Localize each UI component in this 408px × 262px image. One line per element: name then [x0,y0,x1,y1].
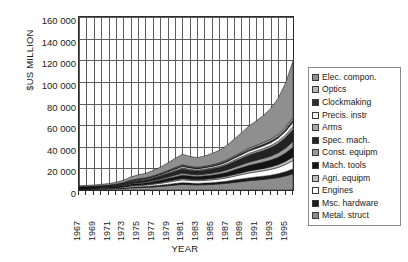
legend-item-label: Engines [322,186,353,195]
x-axis-title: YEAR [120,243,250,254]
legend-item-label: Mach. tools [322,161,366,170]
legend-item[interactable]: Engines [312,184,398,197]
legend-swatch-icon [312,212,319,219]
x-tick-label: 1981 [176,221,185,241]
legend-swatch-icon [312,162,319,169]
chart-legend: Elec. compon.OpticsClockmakingPrecis. in… [308,67,401,226]
stacked-area-series [79,17,293,190]
x-tick-mark [85,191,86,195]
x-tick-label: 1975 [132,221,141,241]
x-tick-label: 1993 [265,221,274,241]
legend-item-label: Agri. equipm [322,174,370,183]
x-tick-mark [277,191,278,195]
legend-item[interactable]: Precis. instr [312,109,398,122]
x-tick-mark [78,191,79,195]
x-tick-label: 1991 [250,221,259,241]
x-tick-label: 1971 [103,221,112,241]
y-tick-label: 60 000 [47,124,76,134]
x-tick-label: 1987 [221,221,230,241]
x-tick-label: 1973 [117,221,126,241]
y-axis-tick-labels: 160 000140 000120 000100 00080 00060 000… [26,11,76,197]
legend-swatch-icon [312,200,319,207]
x-tick-mark [218,191,219,195]
legend-item[interactable]: Arms [312,121,398,134]
legend-swatch-icon [312,112,319,119]
x-tick-mark [130,191,131,195]
legend-item[interactable]: Const. equipm [312,147,398,160]
legend-item[interactable]: Msc. hardware [312,197,398,210]
legend-item[interactable]: Clockmaking [312,96,398,109]
y-tick-label: 0 [71,189,76,199]
legend-swatch-icon [312,149,319,156]
x-tick-label: 1983 [191,221,200,241]
y-tick-label: 80 000 [47,103,76,113]
x-tick-mark [262,191,263,195]
legend-item[interactable]: Agri. equipm [312,172,398,185]
x-tick-mark [115,191,116,195]
legend-swatch-icon [312,99,319,106]
x-tick-mark [240,191,241,195]
x-tick-mark [181,191,182,195]
plot-area [78,16,294,191]
y-tick-label: 120 000 [42,59,76,69]
x-tick-mark [285,191,286,195]
y-tick-label: 140 000 [42,38,76,48]
legend-item-label: Spec. mach. [322,136,370,145]
chart-figure: $US MILLION 160 000140 000120 000100 000… [0,0,408,262]
x-tick-mark [196,191,197,195]
x-tick-mark [203,191,204,195]
legend-swatch-icon [312,124,319,131]
x-tick-mark [233,191,234,195]
legend-item-label: Const. equipm [322,148,377,157]
x-tick-label: 1995 [280,221,289,241]
legend-item-label: Precis. instr [322,111,367,120]
legend-item-label: Clockmaking [322,98,371,107]
y-tick-label: 20 000 [47,167,76,177]
x-tick-mark [211,191,212,195]
x-tick-label: 1989 [235,221,244,241]
legend-item-label: Metal. struct [322,211,369,220]
y-tick-label: 160 000 [42,16,76,26]
x-tick-label: 1977 [147,221,156,241]
x-tick-mark [152,191,153,195]
legend-swatch-icon [312,137,319,144]
x-tick-mark [108,191,109,195]
x-tick-mark [167,191,168,195]
x-tick-label: 1969 [88,221,97,241]
x-tick-mark [174,191,175,195]
x-axis-tick-labels: 1967196919711973197519771979198119831985… [78,197,294,241]
legend-swatch-icon [312,74,319,81]
legend-item[interactable]: Elec. compon. [312,71,398,84]
legend-swatch-icon [312,187,319,194]
x-tick-mark [255,191,256,195]
x-tick-label: 1967 [73,221,82,241]
x-tick-mark [137,191,138,195]
x-tick-label: 1985 [206,221,215,241]
x-tick-mark [270,191,271,195]
legend-item-label: Arms [322,123,342,132]
x-tick-mark [189,191,190,195]
legend-swatch-icon [312,86,319,93]
legend-item-label: Optics [322,85,346,94]
y-tick-label: 100 000 [42,81,76,91]
legend-item[interactable]: Spec. mach. [312,134,398,147]
y-tick-label: 40 000 [47,146,76,156]
x-tick-mark [122,191,123,195]
legend-item[interactable]: Optics [312,84,398,97]
x-tick-mark [100,191,101,195]
x-tick-mark [93,191,94,195]
legend-item-label: Msc. hardware [322,199,378,208]
x-tick-mark [248,191,249,195]
x-tick-mark [226,191,227,195]
legend-item[interactable]: Metal. struct [312,210,398,223]
plot-inner [79,17,293,190]
x-tick-mark [292,191,293,195]
x-tick-mark [144,191,145,195]
x-tick-label: 1979 [162,221,171,241]
legend-item[interactable]: Mach. tools [312,159,398,172]
legend-swatch-icon [312,175,319,182]
legend-item-label: Elec. compon. [322,73,376,82]
x-tick-mark [159,191,160,195]
